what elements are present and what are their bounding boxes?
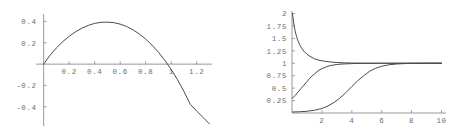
left-plot-x-tick-label: 0.2: [62, 68, 77, 76]
left-plot-y-tick-label: 0.2: [21, 40, 36, 48]
right-plot-y-tick-label: 2: [282, 10, 287, 18]
right-plot-panel: 2468100.250.50.7511.251.51.752: [226, 0, 453, 133]
left-plot-y-tick-label: 0.4: [21, 18, 36, 26]
left-plot-x-tick-label: 0.6: [113, 68, 128, 76]
left-plot-x-tick-label: 0.4: [87, 68, 102, 76]
figure-row: 0.20.40.60.811.2-0.4-0.20.20.4 2468100.2…: [0, 0, 453, 133]
right-plot-x-tick-label: 6: [379, 117, 384, 125]
left-plot-y-tick-label: -0.4: [16, 104, 36, 112]
right-plot-curve: [292, 63, 441, 112]
right-plot-y-tick-label: 0.5: [272, 85, 287, 93]
left-plot-y-tick-label: -0.2: [16, 82, 36, 90]
right-plot-x-tick-label: 10: [436, 117, 446, 125]
right-plot-y-tick-label: 1.75: [267, 23, 287, 31]
right-plot-canvas: 2468100.250.50.7511.251.51.752: [226, 0, 453, 133]
left-plot-canvas: 0.20.40.60.811.2-0.4-0.20.20.4: [0, 0, 226, 133]
right-plot-y-tick-label: 1: [282, 60, 287, 68]
right-plot-y-tick-label: 1.5: [272, 35, 287, 43]
right-plot-y-tick-label: 0.75: [267, 72, 287, 80]
right-plot-curve: [292, 63, 441, 98]
right-plot-y-tick-label: 1.25: [267, 48, 287, 56]
right-plot-x-tick-label: 2: [319, 117, 324, 125]
right-plot-x-tick-label: 8: [409, 117, 414, 125]
left-plot-x-tick-label: 1.2: [189, 68, 204, 76]
right-plot-x-tick-label: 4: [349, 117, 354, 125]
left-plot-x-tick-label: 0.8: [138, 68, 153, 76]
right-plot-curve: [292, 13, 441, 63]
right-plot-y-tick-label: 0.25: [267, 97, 287, 105]
left-plot-panel: 0.20.40.60.811.2-0.4-0.20.20.4: [0, 0, 226, 133]
